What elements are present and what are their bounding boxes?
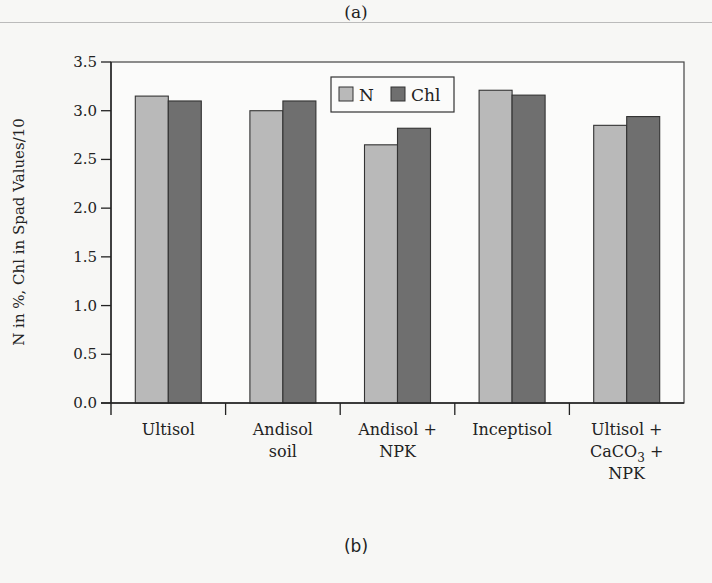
x-tick-label: Andisol	[252, 420, 313, 439]
bar-chl	[283, 101, 316, 403]
bar-n	[135, 96, 168, 403]
y-tick-label: 3.5	[73, 53, 97, 71]
bar-chl	[627, 117, 660, 403]
y-tick-label: 0.0	[73, 394, 97, 412]
y-axis-label: N in %, Chl in Spad Values/10	[10, 118, 28, 346]
bar-n	[594, 125, 627, 403]
bar-chl	[398, 128, 431, 403]
y-tick-label: 3.0	[73, 102, 97, 120]
x-tick-label: Andisol +	[357, 420, 437, 439]
bar-chl	[168, 101, 201, 403]
x-tick-label: NPK	[379, 442, 417, 461]
bar-chl	[512, 95, 545, 403]
bar-chart: 0.00.51.01.52.02.53.03.5 UltisolAndisols…	[0, 0, 712, 583]
bar-n	[250, 111, 283, 403]
bar-n	[365, 145, 398, 403]
y-tick-label: 2.0	[73, 199, 97, 217]
x-tick-label: soil	[269, 442, 297, 461]
x-tick-label: Inceptisol	[472, 420, 552, 439]
x-tick-label: Ultisol	[142, 420, 195, 439]
y-tick-label: 0.5	[73, 345, 97, 363]
legend-swatch-chl	[391, 87, 405, 101]
y-tick-label: 2.5	[73, 150, 97, 168]
y-tick-label: 1.0	[73, 297, 97, 315]
legend-label-n: N	[359, 85, 374, 105]
legend-swatch-n	[339, 87, 353, 101]
x-tick-label: CaCO3 +	[590, 442, 663, 465]
x-axis: UltisolAndisolsoilAndisol +NPKInceptisol…	[101, 403, 684, 483]
y-tick-label: 1.5	[73, 248, 97, 266]
y-axis: 0.00.51.01.52.02.53.03.5	[73, 53, 111, 415]
x-tick-label: Ultisol +	[591, 420, 663, 439]
legend-label-chl: Chl	[411, 85, 440, 105]
bar-n	[479, 90, 512, 403]
figure-caption-b: (b)	[0, 536, 712, 556]
x-tick-label: NPK	[608, 464, 646, 483]
chart-legend: NChl	[331, 77, 454, 112]
